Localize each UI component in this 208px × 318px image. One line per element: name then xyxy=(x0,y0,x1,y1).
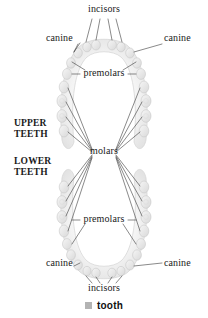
tooth-lower-canine-l xyxy=(74,260,83,270)
tooth-lower-molar-l1 xyxy=(59,225,69,237)
tooth-upper-molar-l4 xyxy=(59,125,69,137)
legend: tooth xyxy=(0,300,208,311)
legend-label-tooth: tooth xyxy=(97,300,123,311)
tooth-lower-molar-r3 xyxy=(141,196,151,209)
lower-teeth-label-line2: TEETH xyxy=(14,167,51,178)
tooth-lower-incisor-r2 xyxy=(117,266,125,275)
tooth-upper-molar-r1 xyxy=(139,81,149,93)
label-canine-upper-left: canine xyxy=(46,33,73,44)
tooth-upper-incisor-r1 xyxy=(108,40,117,50)
label-canine-lower-right: canine xyxy=(164,258,191,269)
tooth-lower-incisor-l1 xyxy=(92,268,100,278)
tooth-lower-molar-r1 xyxy=(139,225,149,237)
label-molars: molars xyxy=(90,146,118,157)
tooth-lower-molar-l4 xyxy=(59,181,69,193)
label-canine-lower-left: canine xyxy=(46,258,73,269)
upper-gum-band xyxy=(61,39,147,148)
upper-jaw-arch xyxy=(57,39,151,148)
tooth-upper-premolar-l2 xyxy=(63,69,72,80)
tooth-lower-incisor-r1 xyxy=(108,268,116,278)
tooth-lower-molar-r4 xyxy=(139,181,149,193)
tooth-lower-premolar-r2 xyxy=(137,239,146,250)
upper-teeth-label-line2: TEETH xyxy=(14,129,48,140)
tooth-upper-molar-r4 xyxy=(139,125,149,137)
label-premolars-upper: premolars xyxy=(84,68,125,79)
tooth-upper-molar-l2 xyxy=(57,95,67,108)
label-premolars-lower: premolars xyxy=(84,214,125,225)
tooth-upper-molar-r2 xyxy=(141,95,151,108)
tooth-lower-molar-l3 xyxy=(57,196,67,209)
tooth-upper-incisor-r2 xyxy=(117,42,125,52)
tooth-upper-molar-l1 xyxy=(59,81,69,93)
leader-molars xyxy=(66,88,142,231)
label-incisors-upper: incisors xyxy=(88,4,120,15)
tooth-lower-premolar-r1 xyxy=(133,250,142,260)
tooth-diagram-page: incisors canine canine premolars molars … xyxy=(0,0,208,318)
tooth-lower-molar-r2 xyxy=(141,211,151,224)
tooth-lower-incisor-l2 xyxy=(83,266,91,275)
label-canine-upper-right: canine xyxy=(164,33,191,44)
tooth-upper-molar-l3 xyxy=(57,110,67,123)
tooth-lower-premolar-l2 xyxy=(63,239,72,250)
lower-teeth-label-line1: LOWER xyxy=(14,156,51,167)
upper-teeth-label-line1: UPPER xyxy=(14,118,48,129)
tooth-upper-canine-r xyxy=(126,48,135,58)
tooth-lower-canine-r xyxy=(126,260,135,270)
lower-teeth-label: LOWER TEETH xyxy=(14,156,51,177)
tooth-upper-incisor-l1 xyxy=(92,40,101,50)
legend-swatch-tooth-icon xyxy=(85,302,92,309)
tooth-upper-incisor-l2 xyxy=(83,42,91,52)
tooth-upper-premolar-r2 xyxy=(137,69,146,80)
upper-teeth-label: UPPER TEETH xyxy=(14,118,48,139)
label-incisors-lower: incisors xyxy=(88,283,120,294)
tooth-upper-molar-r3 xyxy=(141,110,151,123)
leader-incisors-upper xyxy=(86,19,122,42)
tooth-lower-molar-l2 xyxy=(57,211,67,224)
